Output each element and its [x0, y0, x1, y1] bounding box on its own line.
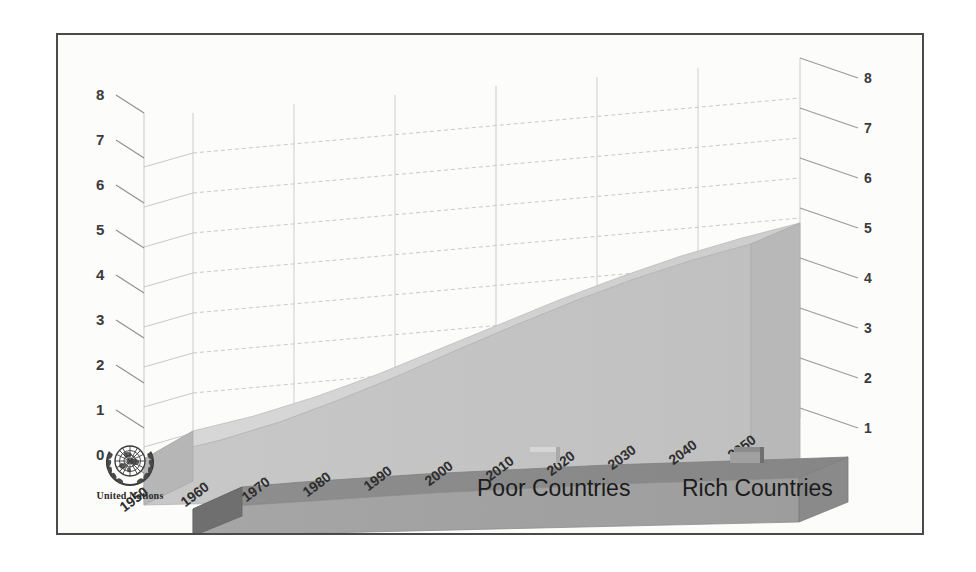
- legend-swatch-poor-countries: [526, 447, 560, 463]
- y-axis-label-right-6: 2: [864, 371, 872, 385]
- screenshot-root: 8 7 6 5 4 3 2 1 0 8 7 6 5 4 3 2 1 1950 1…: [0, 0, 976, 572]
- legend-item-rich-countries[interactable]: [730, 447, 764, 463]
- united-nations-caption: United Nations: [82, 490, 178, 501]
- y-axis-label-left-1: 7: [96, 132, 104, 147]
- y-axis-label-left-0: 8: [96, 87, 104, 102]
- y-axis-label-right-0: 8: [864, 71, 872, 85]
- y-axis-label-left-6: 2: [96, 357, 104, 372]
- chart-panel: 8 7 6 5 4 3 2 1 0 8 7 6 5 4 3 2 1 1950 1…: [56, 33, 924, 535]
- y-axis-label-left-4: 4: [96, 267, 104, 282]
- y-axis-label-right-1: 7: [864, 121, 872, 135]
- y-axis-label-right-2: 6: [864, 171, 872, 185]
- left-wall: [144, 113, 193, 487]
- legend-label-rich-countries: Rich Countries: [682, 475, 833, 502]
- legend-swatch-rich-countries: [730, 447, 764, 463]
- y-axis-label-left-5: 3: [96, 312, 104, 327]
- left-axis-ticks: [116, 95, 144, 473]
- y-axis-label-left-7: 1: [96, 402, 104, 417]
- legend-label-poor-countries: Poor Countries: [477, 475, 630, 502]
- united-nations-emblem-icon: [102, 439, 158, 489]
- y-axis-label-left-3: 5: [96, 222, 104, 237]
- y-axis-label-right-3: 5: [864, 221, 872, 235]
- legend-item-poor-countries[interactable]: [526, 447, 560, 463]
- y-axis-label-right-5: 3: [864, 321, 872, 335]
- y-axis-label-right-7: 1: [864, 421, 872, 435]
- population-area-chart: [58, 35, 924, 535]
- right-axis-ticks: [800, 58, 858, 428]
- y-axis-label-left-2: 6: [96, 177, 104, 192]
- y-axis-label-right-4: 4: [864, 271, 872, 285]
- united-nations-logo: United Nations: [82, 439, 178, 515]
